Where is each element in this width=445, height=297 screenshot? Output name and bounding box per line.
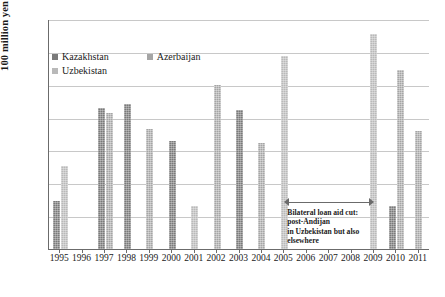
- x-tick-mark: [261, 250, 262, 253]
- x-tick-label-2011: 2011: [398, 253, 438, 263]
- bar-uzbekistan-1995: [61, 166, 68, 249]
- x-tick-mark: [216, 250, 217, 253]
- legend-swatch-kazakhstan: [52, 54, 58, 60]
- bar-kazakhstan-2000: [169, 141, 176, 249]
- x-tick-mark: [351, 250, 352, 253]
- x-tick-mark: [82, 250, 83, 253]
- bar-azerbaijan-2004: [258, 143, 265, 249]
- x-tick-mark: [194, 250, 195, 253]
- x-tick-mark: [104, 250, 105, 253]
- legend-row-2: Uzbekistan: [52, 64, 201, 78]
- annotation-line-4: elsewhere: [287, 236, 407, 245]
- x-tick-mark: [149, 250, 150, 253]
- bar-kazakhstan-1997: [98, 108, 105, 249]
- legend: Kazakhstan Azerbaijan Uzbekistan: [52, 50, 201, 78]
- legend-row-1: Kazakhstan Azerbaijan: [52, 50, 201, 64]
- legend-label-kazakhstan: Kazakhstan: [62, 50, 109, 64]
- x-tick-mark: [373, 250, 374, 253]
- x-tick-mark: [395, 250, 396, 253]
- annotation-line-2: post-Andijan: [287, 217, 407, 226]
- bar-azerbaijan-1997: [106, 113, 113, 249]
- bar-azerbaijan-2002: [214, 85, 221, 249]
- x-tick-mark: [328, 250, 329, 253]
- annotation-text: Bilateral loan aid cut:post-Andijanin Uz…: [287, 208, 407, 246]
- bar-uzbekistan-2001: [191, 206, 198, 249]
- arrow-left-icon: [284, 198, 289, 206]
- legend-swatch-uzbekistan: [52, 68, 58, 74]
- bar-kazakhstan-2003: [236, 110, 243, 249]
- x-tick-mark: [283, 250, 284, 253]
- legend-label-uzbekistan: Uzbekistan: [62, 64, 107, 78]
- annotation-arrow: [284, 198, 374, 207]
- x-tick-mark: [59, 250, 60, 253]
- legend-item-kazakhstan[interactable]: Kazakhstan: [52, 50, 109, 64]
- gridline: [49, 20, 429, 21]
- x-tick-mark: [239, 250, 240, 253]
- annotation-line-1: Bilateral loan aid cut:: [287, 208, 407, 217]
- bar-azerbaijan-2011: [415, 131, 422, 249]
- legend-item-uzbekistan[interactable]: Uzbekistan: [52, 64, 107, 78]
- bar-azerbaijan-1999: [146, 129, 153, 249]
- arrow-right-icon: [369, 198, 374, 206]
- x-tick-mark: [418, 250, 419, 253]
- x-tick-mark: [306, 250, 307, 253]
- y-axis-title: 100 million yen: [0, 0, 10, 96]
- bar-kazakhstan-1995: [53, 201, 60, 249]
- annotation-arrow-line: [288, 202, 370, 203]
- x-tick-mark: [126, 250, 127, 253]
- bar-kazakhstan-1998: [124, 104, 131, 249]
- legend-label-azerbaijan: Azerbaijan: [157, 50, 201, 64]
- legend-item-azerbaijan[interactable]: Azerbaijan: [147, 50, 201, 64]
- legend-swatch-azerbaijan: [147, 54, 153, 60]
- x-axis-tick-labels: 1995199619971998199920002001200220032004…: [48, 253, 429, 273]
- x-tick-mark: [171, 250, 172, 253]
- annotation-line-3: in Uzbekistan but also: [287, 227, 407, 236]
- bar-chart: 100 million yen 050100150200250300350 Bi…: [0, 0, 445, 297]
